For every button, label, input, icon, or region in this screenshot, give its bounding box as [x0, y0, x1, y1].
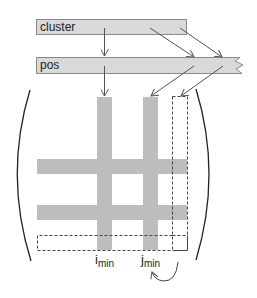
pos-label: pos	[40, 58, 59, 72]
cluster-label: cluster	[40, 20, 75, 34]
imin-sub: min	[98, 258, 114, 269]
diagram-canvas	[0, 0, 257, 298]
matrix-left-paren	[17, 90, 31, 261]
matrix-right-paren	[196, 89, 209, 260]
arrow-cluster-to-pos-diag-2	[180, 28, 222, 57]
pos-box	[37, 58, 244, 74]
row-stripe-imin	[37, 159, 187, 174]
jmin-label: jmin	[141, 252, 160, 269]
imin-label: imin	[95, 252, 114, 269]
jmin-sub: min	[144, 258, 160, 269]
dashed-row-solid-corner	[173, 236, 188, 251]
row-stripe-jmin	[37, 205, 187, 220]
